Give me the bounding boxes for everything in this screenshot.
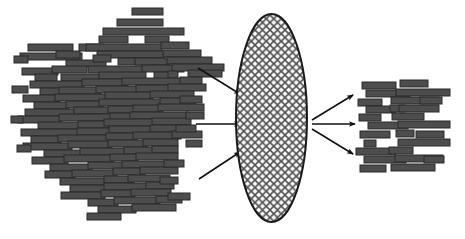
fragment-bar: [35, 74, 57, 81]
arrow-out-bottom: [312, 129, 353, 154]
fragment-bar: [32, 157, 68, 164]
fragment-bar: [93, 55, 111, 62]
fragment-bar: [168, 84, 206, 91]
fragment-bar: [108, 140, 148, 147]
fragment-bar: [389, 147, 413, 154]
output-fragment-cluster: [356, 80, 450, 172]
fragment-bar: [131, 189, 171, 196]
fragment-bar: [391, 164, 435, 171]
fragment-bar: [158, 104, 204, 111]
fragment-bar: [60, 178, 108, 185]
fragment-bar: [59, 87, 101, 94]
fragment-bar: [86, 44, 162, 51]
fragment-bar: [399, 105, 439, 112]
fragment-bar: [68, 141, 112, 148]
fragment-bar: [416, 131, 444, 138]
fragment-bar: [359, 114, 381, 121]
fragment-bar: [98, 206, 136, 213]
fragment-bar: [103, 28, 184, 35]
fragment-bar: [152, 118, 191, 125]
fragment-bar: [28, 44, 73, 51]
fragment-bar: [135, 58, 170, 65]
fragment-bar: [45, 171, 75, 178]
fragment-bar: [31, 136, 61, 143]
fragment-bar: [105, 92, 153, 99]
fragment-bar: [186, 140, 202, 147]
fragment-bar: [420, 97, 442, 104]
fragment-bar: [136, 153, 178, 160]
fragment-bar: [168, 71, 178, 78]
fragment-bar: [101, 190, 135, 197]
fragment-bar: [143, 139, 178, 146]
fragment-bar: [168, 193, 190, 200]
fragment-bar: [61, 192, 105, 199]
fragment-bar: [132, 8, 163, 15]
fragment-bar: [396, 130, 414, 137]
fragment-bar: [396, 89, 450, 96]
fragment-bar: [400, 80, 428, 87]
fragment-bar: [11, 116, 23, 123]
fragment-bar: [176, 125, 196, 132]
arrow-in-bottom: [199, 152, 240, 179]
fragment-bar: [14, 56, 28, 63]
fragment-bar: [160, 177, 178, 184]
output-arrows: [312, 95, 355, 154]
fragment-bar: [87, 213, 121, 220]
fragment-bar: [38, 122, 82, 129]
fragment-bar: [360, 165, 386, 172]
fragment-bar: [364, 140, 376, 147]
fragment-bar: [188, 70, 222, 77]
fragment-bar: [424, 156, 444, 163]
fragment-bar: [64, 155, 114, 162]
diagram-canvas: [0, 0, 465, 239]
fragment-bar: [34, 102, 69, 109]
arrow-out-top: [312, 95, 353, 120]
fragment-bar: [106, 133, 137, 140]
fragment-bar: [180, 77, 202, 84]
fragment-bar: [117, 19, 163, 26]
fragment-bar: [12, 86, 28, 93]
fragment-bar: [362, 82, 396, 89]
fragment-bar: [392, 113, 424, 120]
fragment-bar: [398, 139, 450, 146]
diagram-svg: [0, 0, 465, 239]
filter-ellipse[interactable]: [236, 14, 307, 222]
fragment-bar: [23, 95, 60, 102]
fragment-bar: [152, 146, 178, 153]
fragment-bar: [180, 96, 202, 103]
input-fragment-cluster: [11, 8, 224, 220]
fragment-bar: [358, 99, 382, 106]
fragment-bar: [360, 131, 390, 138]
filter-ellipse-shape: [236, 14, 307, 222]
fragment-bar: [17, 145, 31, 152]
fragment-bar: [140, 167, 178, 174]
fragment-bar: [167, 57, 212, 64]
fragment-bar: [114, 197, 160, 204]
fragment-bar: [52, 66, 87, 73]
fragment-bar: [110, 154, 138, 161]
fragment-bar: [99, 36, 128, 43]
fragment-bar: [82, 79, 128, 86]
fragment-bar: [161, 42, 189, 49]
fragment-bar: [163, 50, 201, 57]
fragment-bar: [186, 112, 204, 119]
fragment-bar: [56, 51, 80, 58]
fragment-bar: [164, 160, 184, 167]
fragment-bar: [398, 121, 450, 128]
fragment-bar: [132, 204, 176, 211]
